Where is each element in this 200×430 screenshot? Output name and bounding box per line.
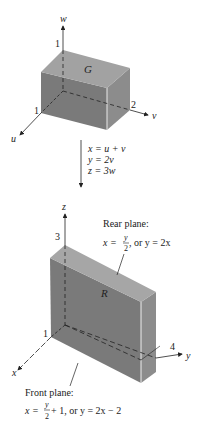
box-g <box>41 50 130 130</box>
rear-plane-title: Rear plane: <box>103 218 149 229</box>
region-g-label: G <box>84 63 92 75</box>
u-axis-label: u <box>11 133 16 144</box>
front-plane-rest: + 1, or y = 2x − 2 <box>51 405 121 416</box>
u-axis-arrow <box>20 113 41 135</box>
x-axis-arrow <box>18 337 51 370</box>
rear-plane-frac-num: y <box>123 233 128 242</box>
z-tick-label: 3 <box>55 231 60 242</box>
rear-plane-rest: , or y = 2x <box>129 237 170 248</box>
y-axis-label: y <box>185 350 191 361</box>
rear-plane-leader <box>117 254 124 275</box>
front-plane-leader <box>70 363 78 386</box>
front-plane-frac-num: y <box>44 400 49 409</box>
y-tick-label: 4 <box>170 341 175 352</box>
w-axis-label: w <box>60 13 67 24</box>
w-tick-label: 1 <box>55 38 60 49</box>
v-axis-label: v <box>152 110 157 121</box>
transform-eq-x: x = u + v <box>87 143 126 154</box>
x-tick-label: 1 <box>43 328 48 339</box>
rear-plane-lhs: x = <box>102 237 117 248</box>
transform-eq-y: y = 2v <box>87 154 114 165</box>
front-plane-lhs: x = <box>24 405 39 416</box>
u-tick-label: 1 <box>34 105 39 116</box>
y-axis-arrow <box>156 354 182 358</box>
v-tick-label: 2 <box>131 99 136 110</box>
region-r-label: R <box>100 287 108 299</box>
region-r <box>50 245 156 383</box>
front-plane-title: Front plane: <box>25 387 74 398</box>
z-axis-label: z <box>61 201 66 212</box>
rear-plane-frac-den: 2 <box>124 244 128 253</box>
diagram-canvas: w 1 v 2 u 1 G x = u + v y = 2v z = 3w z … <box>0 0 200 430</box>
transform-eq-z: z = 3w <box>87 165 116 176</box>
region-r-right-face <box>141 292 156 383</box>
v-axis-arrow <box>130 110 148 115</box>
front-plane-frac-den: 2 <box>45 412 49 421</box>
x-axis-label: x <box>11 367 17 378</box>
